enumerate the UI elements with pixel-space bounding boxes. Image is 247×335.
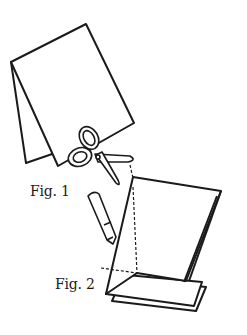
fig-1-label: Fig. 1 — [30, 183, 70, 199]
fig2-folded-paper — [106, 177, 221, 311]
fig-2-label: Fig. 2 — [55, 276, 95, 292]
pencil-icon — [88, 192, 116, 244]
craft-instructions-illustration — [0, 0, 247, 335]
fig1-folded-paper — [11, 24, 134, 166]
